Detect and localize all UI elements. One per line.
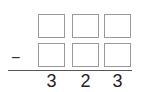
- bottom-digit-box-ones[interactable]: [104, 43, 131, 67]
- result-digit-ones: 3: [104, 72, 131, 90]
- result-digit-hundreds: 3: [38, 72, 65, 90]
- top-digit-box-tens[interactable]: [72, 14, 99, 38]
- bottom-digit-box-tens[interactable]: [72, 43, 99, 67]
- top-digit-box-ones[interactable]: [104, 14, 131, 38]
- minus-sign: −: [11, 50, 20, 66]
- bottom-digit-box-hundreds[interactable]: [38, 43, 65, 67]
- result-digit-tens: 2: [72, 72, 99, 90]
- top-digit-box-hundreds[interactable]: [38, 14, 65, 38]
